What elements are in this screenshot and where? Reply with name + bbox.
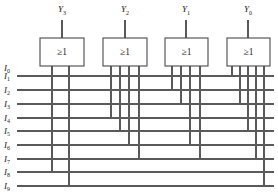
output-label-sub: 0 — [249, 10, 252, 16]
input-label-sub: 0 — [7, 68, 10, 74]
input-label-i3: I3 — [3, 99, 10, 111]
input-label-sub: 3 — [7, 104, 10, 110]
output-label-sub: 3 — [63, 10, 66, 16]
output-label-sub: 2 — [126, 10, 129, 16]
or-gate-symbol-y0: ≥1 — [244, 47, 254, 57]
input-label-i8: I8 — [3, 167, 10, 179]
or-gate-symbol-y1: ≥1 — [182, 47, 192, 57]
input-label-sub: 4 — [7, 118, 10, 124]
output-label-y2: Y2 — [121, 4, 129, 16]
or-gate-symbol-y3: ≥1 — [57, 47, 67, 57]
input-label-sub: 9 — [7, 186, 10, 192]
encoder-circuit-diagram: ≥1≥1≥1≥1Y3Y2Y1Y0I0I1I2I3I4I5I6I7I8I9 — [0, 0, 278, 193]
output-label-sub: 1 — [187, 10, 190, 16]
input-label-i9: I9 — [3, 181, 10, 193]
or-gate-symbol-y2: ≥1 — [120, 47, 130, 57]
input-label-sub: 2 — [7, 90, 10, 96]
input-label-i2: I2 — [3, 85, 10, 97]
output-label-y1: Y1 — [182, 4, 190, 16]
input-label-sub: 5 — [7, 131, 10, 137]
input-label-i5: I5 — [3, 126, 10, 138]
input-label-sub: 6 — [7, 145, 10, 151]
output-label-y0: Y0 — [244, 4, 252, 16]
input-label-sub: 7 — [7, 159, 10, 165]
input-label-sub: 8 — [7, 172, 10, 178]
input-label-i6: I6 — [3, 140, 10, 152]
output-label-y3: Y3 — [58, 4, 66, 16]
input-label-i4: I4 — [3, 113, 10, 125]
circuit-canvas: ≥1≥1≥1≥1Y3Y2Y1Y0I0I1I2I3I4I5I6I7I8I9 — [0, 0, 278, 193]
input-label-sub: 1 — [7, 76, 10, 82]
input-label-i7: I7 — [3, 154, 10, 166]
